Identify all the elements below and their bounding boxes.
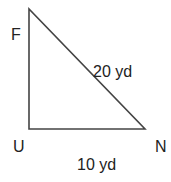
- vertex-label-u: U: [13, 138, 25, 155]
- hypotenuse-length-label: 20 yd: [93, 63, 132, 80]
- triangle-diagram: F U N 20 yd 10 yd: [0, 0, 171, 182]
- vertex-label-n: N: [155, 138, 167, 155]
- vertex-label-f: F: [11, 26, 21, 43]
- base-length-label: 10 yd: [77, 156, 116, 173]
